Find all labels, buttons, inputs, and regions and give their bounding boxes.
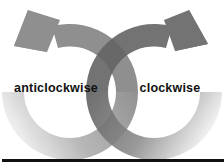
baseline-divider (2, 159, 224, 162)
rotation-diagram: anticlockwise clockwise (0, 0, 224, 165)
clockwise-label: clockwise (140, 81, 201, 95)
anticlockwise-label: anticlockwise (14, 81, 98, 95)
